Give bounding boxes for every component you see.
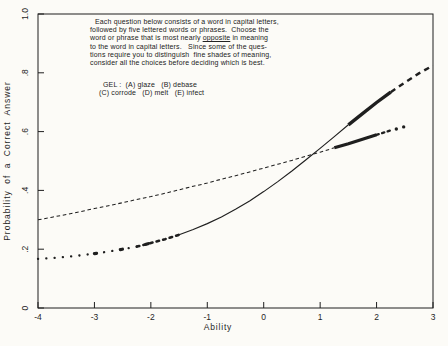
x-tick-label: -3 (91, 312, 99, 322)
low-discrimination-item-icc-segment (38, 148, 334, 220)
directions-line: consider all the choices before deciding… (90, 59, 279, 67)
high-discrimination-item-icc-segment (94, 239, 165, 253)
directions-line-part: word or phrase that is most nearly (90, 34, 203, 41)
directions-line: to the word in capital letters. Since so… (90, 43, 279, 51)
directions-line: Each question below consists of a word i… (90, 18, 279, 26)
high-discrimination-item-icc-segment (179, 125, 348, 235)
x-tick-label: -4 (34, 312, 42, 322)
x-tick-label: -2 (147, 312, 155, 322)
y-tick-label: .6 (20, 128, 30, 135)
low-discrimination-item-icc-point (402, 125, 405, 128)
directions-line: tions require you to distinguish fine sh… (90, 51, 279, 59)
x-tick-label: 3 (431, 312, 436, 322)
x-tick-label: 1 (318, 312, 323, 322)
y-tick-label: .8 (20, 69, 30, 76)
directions-line-part: in meaning (230, 34, 268, 41)
low-discrimination-item-icc-point (395, 127, 398, 130)
directions-line: word or phrase that is most nearly oppos… (90, 34, 279, 42)
example-item-line: (C) corrode (D) melt (E) infect (99, 89, 204, 97)
underlined-word: opposite (203, 34, 231, 41)
high-discrimination-item-icc-segment (391, 66, 433, 93)
y-tick-label: .4 (20, 187, 30, 194)
x-tick-label: 2 (374, 312, 379, 322)
high-discrimination-item-icc-segment (137, 235, 179, 247)
low-discrimination-item-icc-segment (377, 130, 391, 134)
y-tick-label: 1.0 (20, 8, 30, 20)
y-tick-label: .2 (20, 245, 30, 252)
high-discrimination-item-icc-segment (348, 92, 390, 125)
y-axis-title: Probability of a Correct Answer (2, 81, 12, 241)
directions-line: followed by five lettered words or phras… (90, 26, 279, 34)
example-item: GEL : (A) glaze (B) debase (C) corrode (… (103, 81, 204, 97)
low-discrimination-item-icc-segment (334, 135, 376, 148)
x-tick-label: 0 (261, 312, 266, 322)
x-axis-title: Ability (204, 322, 232, 332)
y-tick-label: 0 (20, 305, 30, 310)
x-tick-label: -1 (204, 312, 212, 322)
icc-figure: -4-3-2-101230.2.4.6.81.0AbilityProbabili… (0, 0, 448, 346)
directions-text: Each question below consists of a word i… (90, 18, 279, 67)
example-item-line: GEL : (A) glaze (B) debase (103, 81, 204, 89)
